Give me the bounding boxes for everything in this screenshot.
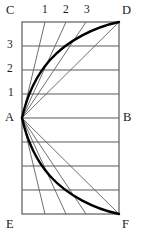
label-d: D [122, 4, 131, 17]
label-f: F [122, 218, 129, 231]
label-left-1: 1 [8, 87, 14, 99]
geometric-figure: C D E F A B 1 2 3 3 2 1 [0, 0, 141, 241]
label-a: A [5, 111, 14, 124]
label-top-1: 1 [42, 4, 48, 16]
label-b: B [123, 111, 131, 124]
figure-canvas [0, 0, 141, 241]
label-top-2: 2 [63, 4, 69, 16]
label-top-3: 3 [84, 4, 90, 16]
label-e: E [6, 218, 14, 231]
label-left-3: 3 [7, 39, 13, 51]
label-c: C [6, 4, 14, 17]
label-left-2: 2 [7, 63, 13, 75]
